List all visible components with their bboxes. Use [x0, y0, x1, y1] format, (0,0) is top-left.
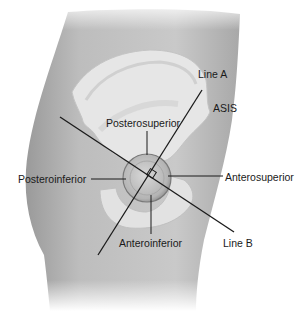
label-posteroinferior: Posteroinferior [18, 173, 86, 185]
label-line-a: Line A [198, 68, 227, 80]
hip-illustration [0, 0, 307, 311]
hip-acetabulum-diagram: Line A ASIS Posterosuperior Posteroinfer… [0, 0, 307, 311]
label-asis: ASIS [213, 102, 237, 114]
label-anteroinferior: Anteroinferior [119, 237, 182, 249]
label-line-b: Line B [223, 237, 253, 249]
label-posterosuperior: Posterosuperior [106, 117, 180, 129]
label-anterosuperior: Anterosuperior [225, 171, 294, 183]
